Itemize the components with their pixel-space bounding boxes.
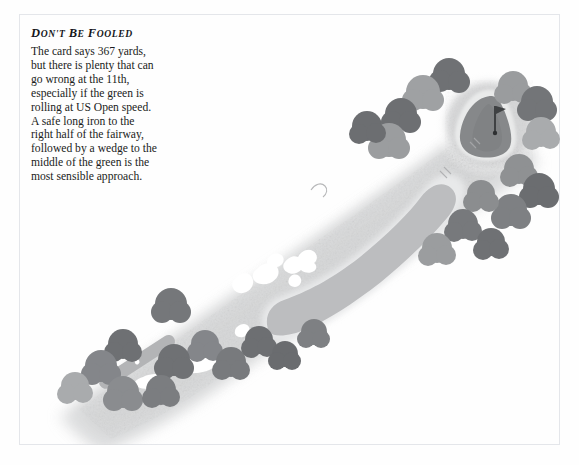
tip-body-line-1: but there is plenty that can (31, 59, 181, 73)
tip-textblock: DON'T BE FOOLED The card says 367 yards,… (31, 26, 181, 184)
tree (151, 288, 191, 323)
tip-body-line-0: The card says 367 yards, (31, 45, 181, 59)
tip-body-line-8: middle of the green is the (31, 156, 181, 170)
tip-body-line-7: followed by a wedge to the (31, 142, 181, 156)
tip-body-line-9: most sensible approach. (31, 170, 181, 184)
tip-heading: DON'T BE FOOLED (31, 26, 181, 41)
tip-body-line-2: go wrong at the 11th, (31, 73, 181, 87)
tip-body-line-3: especially if the green is (31, 87, 181, 101)
hole-diagram-page: DON'T BE FOOLED The card says 367 yards,… (0, 0, 579, 465)
tip-body-line-6: right half of the fairway, (31, 128, 181, 142)
tip-body: The card says 367 yards,but there is ple… (31, 45, 181, 184)
tip-body-line-4: rolling at US Open speed. (31, 101, 181, 115)
tip-body-line-5: A safe long iron to the (31, 115, 181, 129)
tree (349, 111, 386, 144)
